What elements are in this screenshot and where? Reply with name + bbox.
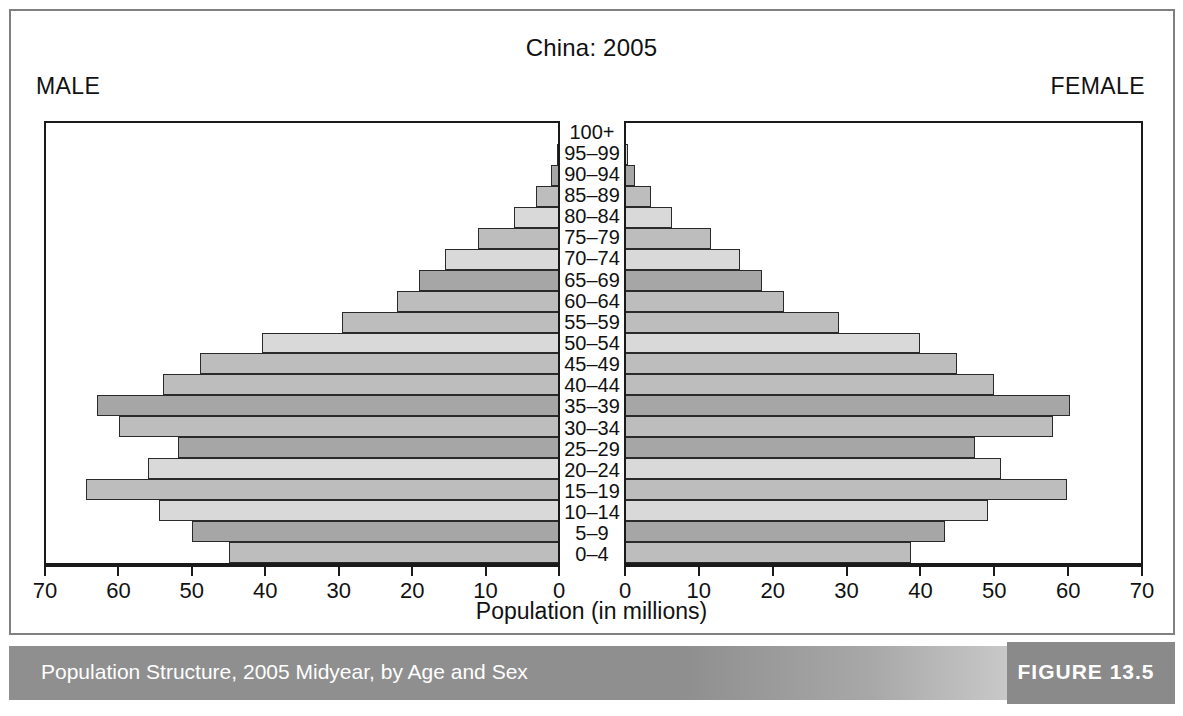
age-label-40-44: 40–44 bbox=[560, 375, 624, 396]
bar-row bbox=[626, 500, 1141, 521]
axis-line-male bbox=[44, 565, 560, 567]
plot-area-female bbox=[624, 121, 1143, 565]
bar-female-10-14 bbox=[626, 500, 988, 521]
age-label-5-9: 5–9 bbox=[560, 523, 624, 544]
bar-female-65-69 bbox=[626, 270, 762, 291]
age-label-100+: 100+ bbox=[560, 121, 624, 142]
bar-male-60-64 bbox=[397, 291, 558, 312]
bar-male-25-29 bbox=[178, 437, 558, 458]
age-label-20-24: 20–24 bbox=[560, 459, 624, 480]
bar-male-65-69 bbox=[419, 270, 558, 291]
bar-rows-female bbox=[626, 123, 1141, 563]
bar-row bbox=[46, 416, 558, 437]
axis-tick bbox=[993, 565, 995, 576]
age-group-labels: 0–45–910–1415–1920–2425–2930–3435–3940–4… bbox=[560, 121, 624, 565]
bar-row bbox=[46, 458, 558, 479]
bar-female-55-59 bbox=[626, 312, 839, 333]
bar-row bbox=[46, 249, 558, 270]
bar-male-10-14 bbox=[159, 500, 558, 521]
axis-line-female bbox=[624, 565, 1143, 567]
bar-female-90-94 bbox=[626, 165, 635, 186]
axis-tick bbox=[44, 565, 46, 576]
bar-row bbox=[46, 437, 558, 458]
bar-row bbox=[626, 249, 1141, 270]
figure-page: China: 2005 MALE FEMALE 0–45–910–1415–19… bbox=[0, 0, 1183, 716]
bar-male-80-84 bbox=[514, 207, 558, 228]
bar-row bbox=[46, 312, 558, 333]
age-label-30-34: 30–34 bbox=[560, 417, 624, 438]
age-label-85-89: 85–89 bbox=[560, 184, 624, 205]
axis-tick bbox=[411, 565, 413, 576]
bar-row bbox=[626, 458, 1141, 479]
age-label-80-84: 80–84 bbox=[560, 206, 624, 227]
bar-female-0-4 bbox=[626, 542, 911, 563]
bar-male-45-49 bbox=[200, 353, 558, 374]
bar-row bbox=[626, 123, 1141, 144]
bar-row bbox=[626, 437, 1141, 458]
axis-tick bbox=[698, 565, 700, 576]
bar-row bbox=[46, 542, 558, 563]
bar-male-55-59 bbox=[342, 312, 558, 333]
caption-bar: Population Structure, 2005 Midyear, by A… bbox=[9, 646, 1175, 700]
age-label-95-99: 95–99 bbox=[560, 142, 624, 163]
bar-row bbox=[626, 165, 1141, 186]
male-axis-label: MALE bbox=[36, 73, 100, 100]
bar-male-5-9 bbox=[192, 521, 558, 542]
bar-female-20-24 bbox=[626, 458, 1001, 479]
axis-tick bbox=[919, 565, 921, 576]
bar-male-15-19 bbox=[86, 479, 558, 500]
chart-title: China: 2005 bbox=[0, 34, 1183, 62]
bar-row bbox=[46, 374, 558, 395]
bar-rows-male bbox=[46, 123, 558, 563]
bar-row bbox=[626, 144, 1141, 165]
bar-row bbox=[626, 416, 1141, 437]
bar-male-95-99 bbox=[557, 144, 558, 165]
axis-tick bbox=[558, 565, 560, 576]
bar-row bbox=[626, 374, 1141, 395]
age-label-75-79: 75–79 bbox=[560, 227, 624, 248]
bar-male-40-44 bbox=[163, 374, 558, 395]
female-axis-label: FEMALE bbox=[1051, 73, 1145, 100]
age-label-90-94: 90–94 bbox=[560, 163, 624, 184]
bar-female-5-9 bbox=[626, 521, 945, 542]
age-label-15-19: 15–19 bbox=[560, 480, 624, 501]
bar-row bbox=[46, 207, 558, 228]
plot-area-male bbox=[44, 121, 560, 565]
bar-row bbox=[46, 291, 558, 312]
age-label-25-29: 25–29 bbox=[560, 438, 624, 459]
age-label-35-39: 35–39 bbox=[560, 396, 624, 417]
bar-male-70-74 bbox=[445, 249, 558, 270]
bar-row bbox=[46, 270, 558, 291]
bar-row bbox=[626, 207, 1141, 228]
bar-row bbox=[46, 395, 558, 416]
bar-male-90-94 bbox=[551, 165, 558, 186]
bar-female-30-34 bbox=[626, 416, 1053, 437]
figure-caption: Population Structure, 2005 Midyear, by A… bbox=[41, 660, 528, 684]
bar-female-70-74 bbox=[626, 249, 740, 270]
bar-male-75-79 bbox=[478, 228, 558, 249]
axis-tick bbox=[846, 565, 848, 576]
bar-row bbox=[46, 521, 558, 542]
axis-tick bbox=[191, 565, 193, 576]
age-label-0-4: 0–4 bbox=[560, 544, 624, 565]
bar-male-20-24 bbox=[148, 458, 558, 479]
bar-row bbox=[626, 395, 1141, 416]
bar-row bbox=[46, 144, 558, 165]
age-label-55-59: 55–59 bbox=[560, 311, 624, 332]
bar-row bbox=[626, 479, 1141, 500]
bar-row bbox=[626, 312, 1141, 333]
axis-tick bbox=[485, 565, 487, 576]
bar-row bbox=[626, 521, 1141, 542]
age-label-10-14: 10–14 bbox=[560, 502, 624, 523]
bar-male-50-54 bbox=[262, 333, 558, 354]
bar-row bbox=[626, 353, 1141, 374]
axis-tick bbox=[1141, 565, 1143, 576]
bar-row bbox=[46, 333, 558, 354]
bar-male-0-4 bbox=[229, 542, 558, 563]
bar-row bbox=[46, 123, 558, 144]
axis-tick bbox=[117, 565, 119, 576]
axis-tick bbox=[624, 565, 626, 576]
bar-row bbox=[46, 479, 558, 500]
bar-female-35-39 bbox=[626, 395, 1070, 416]
figure-number: FIGURE 13.5 bbox=[1007, 660, 1165, 684]
